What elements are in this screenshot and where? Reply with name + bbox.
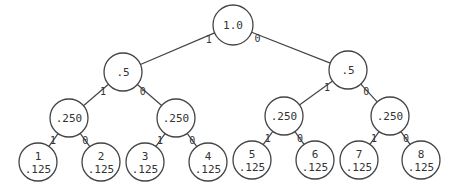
leaf-node: 3.125 bbox=[126, 143, 164, 181]
edge-bit-label: 1 bbox=[100, 86, 106, 97]
leaf-probability: .125 bbox=[302, 161, 329, 174]
leaf-label: 2 bbox=[98, 150, 105, 163]
leaf-probability: .125 bbox=[88, 163, 115, 176]
node-probability: .250 bbox=[377, 110, 404, 123]
node-probability: .250 bbox=[56, 112, 83, 125]
edge-bit-label: 0 bbox=[254, 33, 260, 44]
edge-bit-label: 0 bbox=[403, 133, 409, 144]
leaf-label: 8 bbox=[418, 148, 425, 161]
node-probability: .5 bbox=[116, 66, 129, 79]
leaf-probability: .125 bbox=[346, 161, 373, 174]
leaf-probability: .125 bbox=[239, 161, 266, 174]
leaf-label: 6 bbox=[312, 148, 319, 161]
tree-node: .5 bbox=[329, 51, 367, 89]
tree-node: .5 bbox=[104, 53, 142, 91]
edge-bit-label: 1 bbox=[324, 82, 330, 93]
edge-bit-label: 0 bbox=[82, 135, 88, 146]
leaf-node: 1.125 bbox=[19, 143, 57, 181]
leaf-probability: .125 bbox=[195, 163, 222, 176]
tree-edge bbox=[140, 33, 214, 65]
leaf-probability: .125 bbox=[25, 163, 52, 176]
leaf-label: 7 bbox=[356, 148, 363, 161]
tree-nodes: 1.0.5.5.250.250.250.2501.1252.1253.1254.… bbox=[19, 5, 440, 181]
leaf-label: 4 bbox=[205, 150, 212, 163]
probability-tree-diagram: 10101010101010 1.0.5.5.250.250.250.2501.… bbox=[0, 0, 457, 187]
leaf-node: 5.125 bbox=[233, 141, 271, 179]
leaf-node: 2.125 bbox=[82, 143, 120, 181]
edge-bit-labels: 10101010101010 bbox=[50, 33, 409, 146]
tree-node: .250 bbox=[371, 97, 409, 135]
edge-bit-label: 0 bbox=[363, 86, 369, 97]
leaf-probability: .125 bbox=[408, 161, 435, 174]
leaf-label: 3 bbox=[142, 150, 149, 163]
leaf-label: 5 bbox=[249, 148, 256, 161]
leaf-probability: .125 bbox=[132, 163, 159, 176]
leaf-node: 6.125 bbox=[296, 141, 334, 179]
leaf-node: 4.125 bbox=[189, 143, 227, 181]
leaf-label: 1 bbox=[35, 150, 42, 163]
node-probability: .250 bbox=[271, 110, 298, 123]
tree-node: .250 bbox=[157, 99, 195, 137]
tree-edge bbox=[252, 32, 331, 63]
node-probability: .250 bbox=[163, 112, 190, 125]
edge-bit-label: 0 bbox=[140, 86, 146, 97]
edge-bit-label: 1 bbox=[206, 34, 212, 45]
tree-node: .250 bbox=[50, 99, 88, 137]
node-probability: 1.0 bbox=[223, 19, 243, 32]
edge-bit-label: 1 bbox=[265, 133, 271, 144]
tree-node: 1.0 bbox=[213, 5, 253, 45]
tree-node: .250 bbox=[265, 97, 303, 135]
edge-bit-label: 1 bbox=[157, 135, 163, 146]
edge-bit-label: 0 bbox=[189, 135, 195, 146]
edge-bit-label: 1 bbox=[50, 135, 56, 146]
edge-bit-label: 0 bbox=[297, 133, 303, 144]
edge-bit-label: 1 bbox=[371, 133, 377, 144]
leaf-node: 8.125 bbox=[402, 141, 440, 179]
node-probability: .5 bbox=[341, 64, 354, 77]
leaf-node: 7.125 bbox=[340, 141, 378, 179]
